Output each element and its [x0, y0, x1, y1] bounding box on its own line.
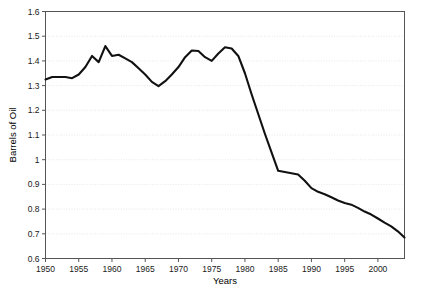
x-tick-label: 1985	[269, 264, 288, 274]
chart-background	[0, 0, 428, 288]
line-chart: 0.60.70.80.911.11.21.31.41.51.6 19501955…	[0, 0, 428, 288]
x-tick-label: 1965	[136, 264, 155, 274]
y-tick-label: 1.3	[28, 81, 40, 91]
x-tick-label: 1980	[235, 264, 254, 274]
y-tick-label: 0.8	[28, 204, 40, 214]
y-tick-label: 1.2	[28, 105, 40, 115]
x-tick-label: 1950	[36, 264, 55, 274]
y-tick-label: 1.6	[28, 7, 40, 17]
chart-canvas: 0.60.70.80.911.11.21.31.41.51.6 19501955…	[0, 0, 428, 288]
x-tick-label: 1960	[103, 264, 122, 274]
y-axis-title: Barrels of Oil	[7, 108, 18, 163]
x-tick-label: 1995	[335, 264, 354, 274]
x-tick-label: 1970	[169, 264, 188, 274]
y-tick-label: 0.9	[28, 179, 40, 189]
x-tick-label: 1990	[302, 264, 321, 274]
y-tick-label: 1.1	[28, 130, 40, 140]
y-tick-label: 1.4	[28, 56, 40, 66]
x-tick-label: 2000	[368, 264, 387, 274]
y-tick-label: 0.6	[28, 254, 40, 264]
y-tick-label: 1.5	[28, 31, 40, 41]
y-tick-label: 1	[35, 155, 40, 165]
x-axis-title: Years	[213, 275, 237, 286]
y-tick-label: 0.7	[28, 229, 40, 239]
x-tick-label: 1955	[69, 264, 88, 274]
x-tick-label: 1975	[202, 264, 221, 274]
